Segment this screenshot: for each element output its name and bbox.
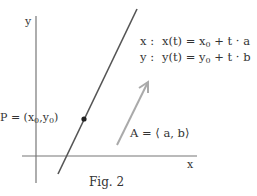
figure-caption: Fig. 2 (89, 175, 124, 189)
x-axis-label: x (187, 158, 194, 171)
equation-y: y :y(t) = y0 + t · b (139, 50, 251, 65)
y-axis-label: y (24, 15, 32, 28)
parametric-line-figure: y x P = (x0,y0) A = ⟨ a, b⟩ x :x(t) = x0… (0, 0, 257, 196)
point-p-label: P = (x0,y0) (0, 111, 58, 125)
point-p (81, 116, 86, 121)
equation-x: x :x(t) = x0 + t · a (140, 34, 250, 49)
vector-label: A = ⟨ a, b⟩ (129, 126, 189, 140)
parametric-line (58, 9, 137, 174)
